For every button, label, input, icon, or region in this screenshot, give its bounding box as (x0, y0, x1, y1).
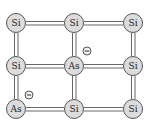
atom-label: Si (69, 18, 78, 28)
atom-si: Si (7, 57, 26, 76)
atom-label: Si (128, 61, 137, 71)
bond-c0-r1-r2 (15, 76, 19, 99)
atom-si: Si (65, 100, 84, 119)
bond-c2-r0-r1 (132, 33, 136, 56)
atom-label: As (9, 104, 21, 114)
atom-si: Si (124, 14, 143, 33)
bond-c2-r1-r2 (132, 76, 136, 99)
atom-label: Si (11, 18, 20, 28)
atom-label: As (67, 61, 79, 71)
atom-label: Si (11, 61, 20, 71)
bond-r2-c1-c2 (84, 108, 123, 112)
atom-si: Si (124, 57, 143, 76)
bond-r0-c1-c2 (84, 22, 123, 26)
bond-r1-c1-c2 (84, 65, 123, 69)
atom-as: As (7, 100, 26, 119)
atom-label: Si (69, 104, 78, 114)
atom-si: Si (65, 14, 84, 33)
bond-c0-r0-r1 (15, 33, 19, 56)
lattice-diagram: SiSiSiSiAsSiAsSiSi (0, 0, 148, 127)
free-electron-icon (83, 47, 91, 55)
bond-r2-c0-c1 (26, 108, 64, 112)
atom-label: Si (128, 104, 137, 114)
atom-si: Si (7, 14, 26, 33)
atom-label: Si (128, 18, 137, 28)
atoms: SiSiSiSiAsSiAsSiSi (7, 14, 143, 119)
bond-c1-r0-r1 (73, 33, 77, 56)
free-electron-icon (25, 91, 33, 99)
bond-r1-c0-c1 (26, 65, 64, 69)
atom-si: Si (124, 100, 143, 119)
bond-r0-c0-c1 (26, 22, 64, 26)
bond-c1-r1-r2 (73, 76, 77, 99)
atom-as: As (65, 57, 84, 76)
